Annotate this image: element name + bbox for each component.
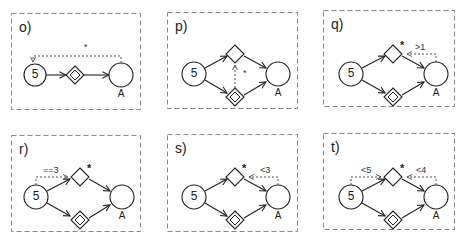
flow-arrow (205, 56, 227, 68)
end-event-label: A (272, 87, 284, 98)
condition-label-right: <4 (416, 165, 426, 175)
end-event-circle (109, 63, 133, 87)
flow-arrow (402, 82, 424, 95)
parallel-gateway-icon (226, 211, 244, 229)
flow-arrow (362, 80, 385, 93)
panel-label: p) (175, 18, 187, 34)
flow-arrow (205, 179, 227, 191)
panel-label: q) (331, 16, 343, 32)
start-event-label: 5 (29, 67, 41, 81)
star-marker: * (242, 162, 246, 174)
flow-arrow (47, 179, 70, 191)
end-event-label: A (272, 210, 284, 221)
flow-arrow (89, 205, 110, 218)
condition-label-right: <3 (260, 165, 270, 175)
end-event-circle (110, 185, 134, 209)
flow-arrow (47, 203, 70, 216)
flow-arrow (244, 82, 266, 95)
panel-r: r) 5 A * ==3 (11, 135, 141, 232)
flow-arrow (362, 56, 385, 68)
star-marker: * (87, 162, 91, 174)
end-event-label: A (430, 87, 442, 98)
flow-arrow (244, 56, 266, 68)
start-event-label: 5 (345, 66, 357, 80)
dotted-loop-arrow (33, 56, 121, 63)
flow-arrow (244, 179, 266, 191)
condition-label-right: >1 (415, 42, 425, 52)
parallel-gateway-icon (66, 66, 84, 84)
panel-label: r) (19, 141, 28, 157)
panel-label: t) (331, 139, 340, 155)
start-event-label: 5 (30, 189, 42, 203)
condition-label-left: ==3 (43, 165, 59, 175)
end-event-circle (424, 185, 448, 209)
parallel-gateway-icon (384, 211, 402, 229)
flow-arrow (89, 179, 110, 191)
dotted-condition-arrow (36, 177, 68, 185)
annotation-star: * (84, 42, 88, 52)
end-event-label: A (115, 88, 127, 99)
end-event-label: A (116, 210, 128, 221)
parallel-gateway-icon (226, 88, 244, 106)
end-event-circle (266, 62, 290, 86)
flow-arrow (244, 205, 266, 218)
flow-arrow (205, 80, 227, 93)
star-marker: * (400, 39, 404, 51)
condition-label-left: <5 (361, 165, 371, 175)
panel-t: t) 5 A * <5 <4 (323, 133, 455, 230)
panel-p: p) 5 A * (167, 12, 298, 109)
end-event-label: A (430, 210, 442, 221)
annotation-star: * (243, 68, 247, 78)
panel-label: o) (19, 19, 31, 35)
start-event-label: 5 (188, 189, 200, 203)
flow-arrow (362, 179, 385, 191)
flow-arrow (205, 203, 227, 216)
panel-label: s) (175, 140, 187, 156)
parallel-gateway-icon (71, 211, 89, 229)
flow-arrow (402, 56, 424, 68)
flow-arrow (362, 203, 385, 216)
end-event-circle (266, 185, 290, 209)
panel-s: s) 5 A * <3 (167, 134, 298, 232)
end-event-circle (424, 62, 448, 86)
panel-o: o) 5 A * (11, 13, 141, 110)
flow-arrow (402, 179, 424, 191)
parallel-gateway-icon (384, 88, 402, 106)
flow-arrow (402, 205, 424, 218)
star-marker: * (400, 162, 404, 174)
start-event-label: 5 (188, 66, 200, 80)
panel-q: q) 5 A * >1 (323, 10, 455, 107)
exclusive-gateway-icon (226, 45, 244, 63)
start-event-label: 5 (345, 189, 357, 203)
